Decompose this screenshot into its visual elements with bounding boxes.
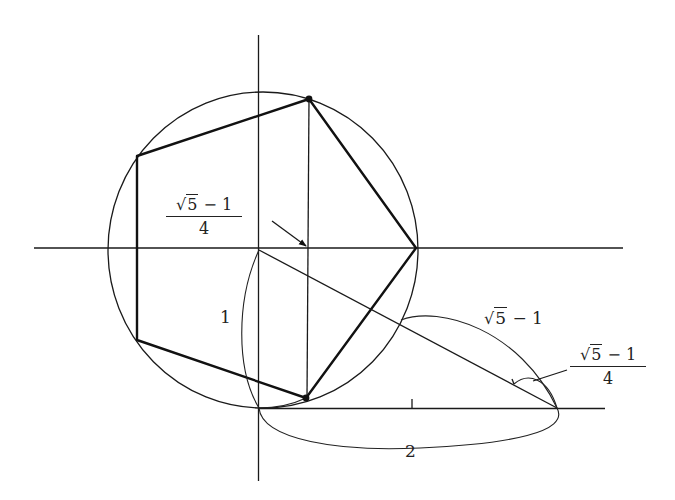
top-fraction-denominator: 4 [166, 217, 242, 237]
small-segment-brace [514, 378, 557, 408]
horizontal-leg-label: 2 [405, 443, 416, 460]
sqrt-symbol: √5 [484, 310, 507, 327]
right-fraction-numerator: √5 − 1 [570, 347, 646, 366]
top-fraction-label: √5 − 1 4 [166, 197, 242, 237]
sqrt-symbol: √5 [176, 197, 198, 213]
right-fraction-label: √5 − 1 4 [570, 347, 646, 387]
hypotenuse [259, 250, 557, 408]
vertical-leg-brace [242, 250, 259, 408]
vertex-dot-bottom [303, 395, 310, 402]
hypotenuse-segment-brace [401, 316, 557, 408]
right-fraction-denominator: 4 [570, 367, 646, 387]
top-fraction-numerator: √5 − 1 [166, 197, 242, 216]
sqrt-symbol: √5 [580, 347, 602, 363]
unit-circle [108, 92, 418, 408]
small-tick-mark [512, 379, 514, 384]
hypotenuse-segment-label: √5 − 1 [484, 310, 543, 327]
small-segment-leader [533, 370, 567, 381]
pentagon-construction-diagram [0, 0, 675, 500]
vertical-leg-label: 1 [220, 309, 231, 326]
arrow-pointer [272, 221, 306, 246]
vertex-dot-top [306, 96, 313, 103]
